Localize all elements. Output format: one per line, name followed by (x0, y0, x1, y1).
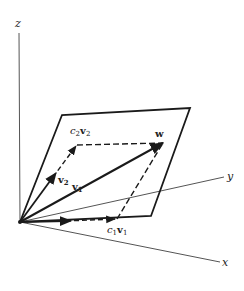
plane (20, 108, 190, 222)
y-axis-label: y (226, 170, 234, 183)
v2-label: v2 (57, 174, 69, 187)
x-axis-label: x (222, 256, 229, 269)
z-axis (19, 33, 20, 222)
w-vector (20, 143, 163, 222)
dashed-c1v1-to-w (117, 143, 163, 219)
z-axis-label: z (14, 17, 21, 30)
c2v2-label: c2v2 (70, 125, 90, 138)
c2v2-vector-solid (20, 177, 53, 222)
diagram-canvas: z y x w v1 v2 c2v2 c1v1 (0, 0, 244, 291)
c1v1-vector-solid (20, 221, 66, 222)
c1v1-label: c1v1 (107, 224, 127, 237)
y-axis (20, 177, 224, 222)
w-label: w (154, 128, 164, 139)
vector-plane-diagram: z y x w v1 v2 c2v2 c1v1 (0, 0, 244, 291)
dashed-c2v2-to-w (77, 143, 163, 145)
c2v2-vector-dashed (53, 146, 76, 177)
origin-point (18, 220, 22, 224)
